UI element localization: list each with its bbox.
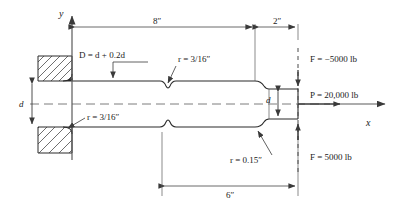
annotation-r-groove-leader [168,66,176,83]
dimension-2in [259,24,298,40]
diameter-d-right-label: d [266,95,271,105]
figure-canvas: y x 8″ 2″ 6″ d d D = d + 0.2d [0,0,394,212]
annotation-r-groove-label: r = 3/16″ [178,54,211,64]
annotation-r-step-label: r = 0.15″ [230,155,262,165]
annotation-D-label: D = d + 0.2d [79,50,125,60]
load-P-label: P = 20,000 lb [310,90,359,100]
load-F-bottom-label: F = 5000 lb [310,152,352,162]
wall-hatching-lower [26,110,96,170]
dimension-2in-label: 2″ [273,16,282,26]
wall-support [26,44,96,170]
y-axis-label: y [58,8,64,19]
annotation-D-leader [113,62,148,78]
load-F-top-label: F = −5000 lb [310,54,357,64]
dimension-6in-label: 6″ [226,190,235,200]
diameter-d-left-label: d [19,99,24,109]
x-axis-label: x [365,117,371,128]
dimension-8in-label: 8″ [153,16,162,26]
annotation-r-wall-label: r = 3/16″ [87,112,120,122]
annotation-r-step-leader [258,131,272,155]
